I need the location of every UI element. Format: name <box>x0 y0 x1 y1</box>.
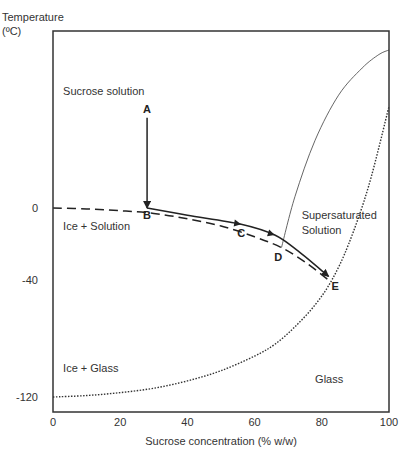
y-tick-label: 0 <box>32 202 38 214</box>
y-tick-label: -120 <box>16 391 38 403</box>
region-label: Ice + Glass <box>63 362 119 374</box>
region-label: Glass <box>315 373 344 385</box>
region-label: Sucrose solution <box>63 85 144 97</box>
point-label-d: D <box>274 251 282 263</box>
x-tick-label: 0 <box>50 416 56 428</box>
x-tick-label: 80 <box>316 416 328 428</box>
region-label: Supersaturated <box>302 209 377 221</box>
region-label: Ice + Solution <box>63 220 130 232</box>
region-label: Solution <box>302 224 342 236</box>
x-axis-label: Sucrose concentration (% w/w) <box>145 435 297 447</box>
phase-diagram: 0204060801000-40-120ABCDESucrose solutio… <box>0 0 413 461</box>
point-label-c: C <box>237 227 245 239</box>
arrowhead <box>267 230 276 239</box>
x-tick-label: 100 <box>380 416 398 428</box>
series-freezing-curve-liquidus <box>53 208 329 280</box>
y-tick-label: -40 <box>22 274 38 286</box>
x-tick-label: 20 <box>114 416 126 428</box>
point-label-a: A <box>143 103 151 115</box>
y-axis-label-line2: (ºC) <box>2 25 21 37</box>
point-label-b: B <box>143 209 151 221</box>
point-label-e: E <box>332 280 339 292</box>
y-axis-label-line1: Temperature <box>2 11 64 23</box>
x-tick-label: 60 <box>248 416 260 428</box>
x-tick-label: 40 <box>181 416 193 428</box>
series-glass-transition-curve <box>53 106 389 397</box>
